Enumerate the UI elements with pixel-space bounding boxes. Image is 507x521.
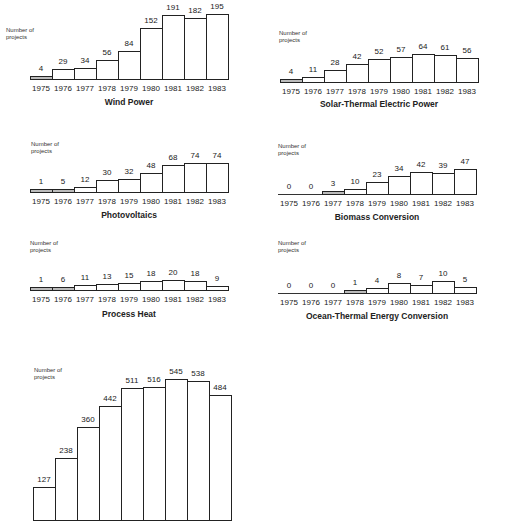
y-axis-label-line1: Number of <box>30 240 58 247</box>
x-tick-label: 1975 <box>29 197 53 206</box>
chart-title: Wind Power <box>30 97 228 107</box>
bar-1981 <box>412 54 435 83</box>
x-tick-label: 1979 <box>365 199 389 208</box>
bar-1978 <box>346 64 369 83</box>
y-axis-label: Number ofprojects <box>30 240 58 254</box>
x-tick-label: 1983 <box>453 199 477 208</box>
y-axis-label-line2: projects <box>278 247 306 254</box>
x-tick-label: 1981 <box>409 199 433 208</box>
x-tick-label: 1978 <box>95 84 119 93</box>
y-axis-label-line1: Number of <box>278 240 306 247</box>
y-axis-label-line1: Number of <box>279 30 307 37</box>
x-tick-label: 1977 <box>73 295 97 304</box>
bar-1980 <box>143 387 166 521</box>
bar-1975 <box>280 79 303 83</box>
x-tick-label: 1977 <box>73 197 97 206</box>
y-axis-label: Number ofprojects <box>279 30 307 44</box>
x-tick-label: 1981 <box>161 295 185 304</box>
x-tick-label: 1982 <box>183 84 207 93</box>
x-tick-label: 1978 <box>343 298 367 307</box>
x-tick-label: 1981 <box>411 87 435 96</box>
bar-1976 <box>52 189 75 193</box>
x-tick-label: 1975 <box>277 298 301 307</box>
bar-1982 <box>184 281 207 291</box>
bar-1976 <box>52 69 75 80</box>
x-tick-label: 1979 <box>367 87 391 96</box>
bar-1980 <box>388 283 411 294</box>
value-label: 47 <box>450 157 480 166</box>
bar-1983 <box>206 163 229 193</box>
y-axis-label-line1: Number of <box>34 367 62 374</box>
x-tick-label: 1977 <box>73 84 97 93</box>
value-label: 5 <box>450 275 480 284</box>
bar-1983 <box>206 286 229 292</box>
bar-1977 <box>324 70 347 83</box>
bar-1980 <box>390 57 413 83</box>
bar-1981 <box>162 15 185 80</box>
bar-1978 <box>99 406 122 521</box>
x-tick-label: 1980 <box>387 199 411 208</box>
x-tick-label: 1983 <box>453 298 477 307</box>
x-tick-label: 1981 <box>161 84 185 93</box>
x-tick-label: 1976 <box>51 295 75 304</box>
x-tick-label: 1976 <box>299 199 323 208</box>
bar-1978 <box>96 284 119 292</box>
x-tick-label: 1982 <box>433 87 457 96</box>
x-tick-label: 1977 <box>321 199 345 208</box>
bar-1981 <box>410 285 433 294</box>
x-tick-label: 1980 <box>387 298 411 307</box>
bar-1983 <box>454 169 477 195</box>
x-tick-label: 1980 <box>389 87 413 96</box>
bar-1976 <box>302 77 325 83</box>
bar-1983 <box>454 287 477 294</box>
y-axis-label-line1: Number of <box>31 141 59 148</box>
x-tick-label: 1982 <box>431 199 455 208</box>
bar-1975 <box>30 189 53 193</box>
x-tick-label: 1975 <box>29 84 53 93</box>
chart-title: Biomass Conversion <box>278 212 476 222</box>
bar-1980 <box>388 176 411 195</box>
bar-1983 <box>206 14 229 80</box>
bar-1978 <box>344 290 367 294</box>
bar-1979 <box>118 51 141 80</box>
x-tick-label: 1977 <box>321 298 345 307</box>
bar-1976 <box>55 458 78 521</box>
bar-1982 <box>184 18 207 80</box>
x-tick-label: 1976 <box>51 197 75 206</box>
bar-1980 <box>140 28 163 80</box>
x-tick-label: 1982 <box>183 197 207 206</box>
x-tick-label: 1975 <box>29 295 53 304</box>
x-tick-label: 1978 <box>345 87 369 96</box>
y-axis-label-line2: projects <box>31 148 59 155</box>
bar-1977 <box>74 285 97 292</box>
y-axis-label-line2: projects <box>6 34 34 41</box>
y-axis-label: Number ofprojects <box>31 141 59 155</box>
y-axis-label-line1: Number of <box>278 143 306 150</box>
bar-1975 <box>33 487 56 521</box>
bar-1982 <box>187 381 210 521</box>
value-label: 538 <box>183 369 213 378</box>
x-tick-label: 1976 <box>51 84 75 93</box>
bar-1981 <box>162 165 185 193</box>
chart-title: Photovoltaics <box>30 210 228 220</box>
bar-1976 <box>52 287 75 291</box>
bar-1981 <box>410 172 433 195</box>
y-axis-label: Number ofprojects <box>34 367 62 381</box>
bar-1980 <box>140 173 163 193</box>
y-axis-label-line1: Number of <box>6 27 34 34</box>
value-label: 56 <box>452 46 482 55</box>
bar-1982 <box>184 163 207 193</box>
chart-title: Process Heat <box>30 309 228 319</box>
x-tick-label: 1978 <box>343 199 367 208</box>
bar-1982 <box>432 173 455 195</box>
x-tick-label: 1983 <box>205 197 229 206</box>
x-tick-label: 1982 <box>183 295 207 304</box>
y-axis-label: Number ofprojects <box>278 240 306 254</box>
bar-1975 <box>30 287 53 291</box>
y-axis-label-line2: projects <box>279 37 307 44</box>
x-tick-label: 1983 <box>205 295 229 304</box>
bar-1982 <box>434 55 457 83</box>
bar-1981 <box>162 280 185 291</box>
x-tick-label: 1975 <box>279 87 303 96</box>
y-axis-label: Number ofprojects <box>278 143 306 157</box>
